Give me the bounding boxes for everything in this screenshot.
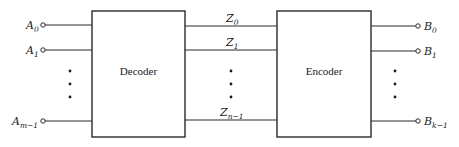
input-terminal-a1 xyxy=(41,48,45,52)
input-ellipsis xyxy=(69,70,72,99)
input-label-a0: A0 xyxy=(25,19,39,34)
output-terminal-b1 xyxy=(416,49,420,53)
decoder-label: Decoder xyxy=(120,65,158,77)
intermediate-ellipsis xyxy=(230,70,233,99)
wire-label-zn1: Zn−1 xyxy=(219,106,244,121)
input-label-am1: Am−1 xyxy=(11,115,38,130)
output-wires xyxy=(371,24,420,123)
encoder-label: Encoder xyxy=(306,65,343,77)
output-label-bk1: Bk−1 xyxy=(423,115,448,130)
output-terminal-b0 xyxy=(416,24,420,28)
output-label-b1: B1 xyxy=(423,45,437,60)
output-label-b0: B0 xyxy=(423,20,437,35)
input-terminal-am1 xyxy=(41,119,45,123)
decoder-encoder-diagram: A0 A1 Am−1 Decoder Z0 Z1 Zn−1 Encoder B0… xyxy=(0,0,459,147)
wire-label-z1: Z1 xyxy=(225,36,238,51)
input-label-a1: A1 xyxy=(25,44,39,59)
wire-label-z0: Z0 xyxy=(225,12,239,27)
input-wires xyxy=(41,23,92,123)
input-terminal-a0 xyxy=(41,23,45,27)
output-terminal-bk1 xyxy=(416,119,420,123)
output-ellipsis xyxy=(394,70,397,99)
